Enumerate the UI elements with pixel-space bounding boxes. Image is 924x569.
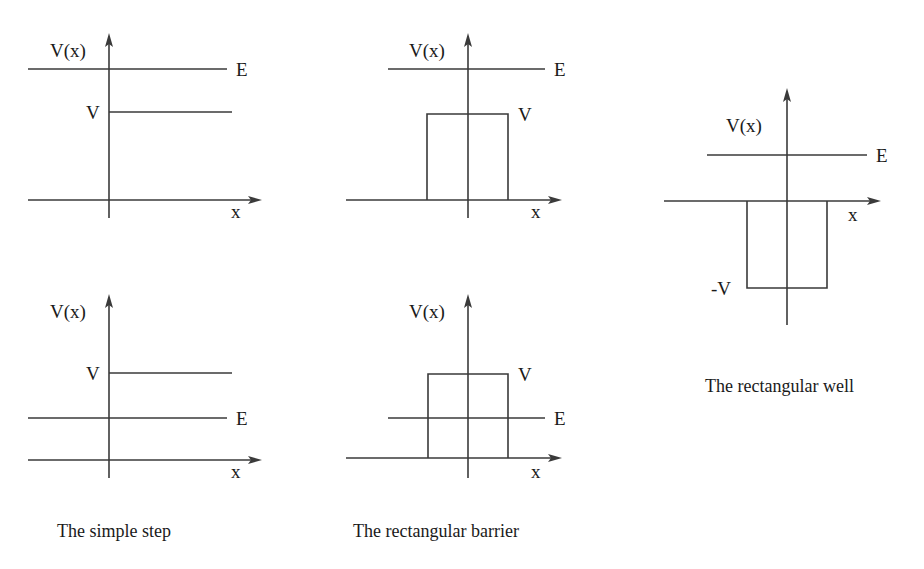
y-axis-label: V(x) — [50, 40, 86, 62]
y-axis-label: V(x) — [726, 115, 762, 137]
panel-rectangular-barrier-below: V(x) x E V The rectangular barrier — [346, 294, 566, 541]
y-axis-label: V(x) — [409, 301, 445, 323]
x-axis-label: x — [531, 461, 541, 482]
panel-rectangular-well: V(x) x E -V The rectangular well — [664, 88, 888, 396]
potential-label: V — [86, 102, 100, 123]
y-axis-label: V(x) — [409, 40, 445, 62]
panel-caption-rectangular-barrier: The rectangular barrier — [353, 521, 519, 541]
potential-label: V — [518, 104, 532, 125]
energy-level-label: E — [554, 408, 566, 429]
energy-level-label: E — [236, 408, 248, 429]
x-axis-label: x — [231, 201, 241, 222]
x-axis-label: x — [231, 461, 241, 482]
energy-level-label: E — [236, 59, 248, 80]
x-axis-label: x — [531, 201, 541, 222]
panel-rectangular-barrier-above: V(x) x E V — [346, 33, 566, 222]
potential-profiles-figure: V(x) x E V V(x) x E V V(x) x E -V The re… — [0, 0, 924, 569]
energy-level-label: E — [554, 59, 566, 80]
energy-level-label: E — [876, 145, 888, 166]
y-axis-label: V(x) — [50, 301, 86, 323]
potential-label: V — [518, 364, 532, 385]
x-axis-label: x — [848, 204, 858, 225]
panel-caption-simple-step: The simple step — [57, 521, 171, 541]
potential-label: -V — [711, 278, 731, 299]
potential-label: V — [86, 363, 100, 384]
panel-caption-rectangular-well: The rectangular well — [705, 376, 854, 396]
panel-simple-step-below: V(x) x E V The simple step — [28, 294, 262, 541]
panel-simple-step-above: V(x) x E V — [28, 33, 262, 222]
